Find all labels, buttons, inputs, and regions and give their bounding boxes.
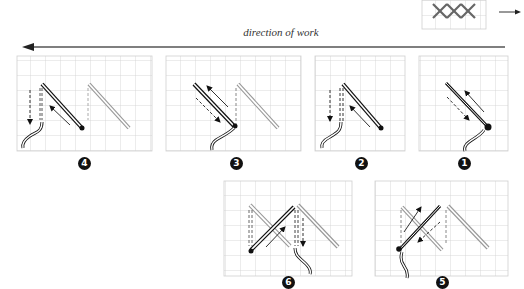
legend-sample-grid xyxy=(422,0,486,29)
step-6-badge: 6 xyxy=(282,276,295,289)
step-2-panel xyxy=(315,56,405,151)
step-5-badge: 5 xyxy=(436,276,449,289)
direction-arrow-icon xyxy=(22,43,505,51)
step-3-panel xyxy=(166,56,301,151)
step-1-panel xyxy=(419,56,508,151)
legend-arrow-icon xyxy=(499,10,521,15)
step-4-panel xyxy=(17,56,152,151)
step-4-badge: 4 xyxy=(78,157,91,170)
step-1-badge: 1 xyxy=(458,157,471,170)
step-5-panel xyxy=(375,181,508,278)
step-3-badge: 3 xyxy=(230,157,243,170)
step-6-panel xyxy=(224,181,352,276)
step-2-badge: 2 xyxy=(355,157,368,170)
